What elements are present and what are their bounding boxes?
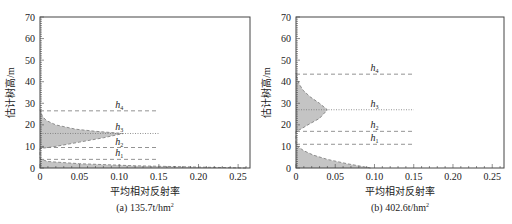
y-tick-label: 70 xyxy=(25,12,35,23)
marker-subscript: 2 xyxy=(376,125,379,131)
y-tick-label: 0 xyxy=(30,163,35,174)
y-tick-label: 50 xyxy=(25,55,35,66)
y-tick-label: 10 xyxy=(25,141,35,152)
x-tick-label: 0 xyxy=(294,171,299,182)
y-axis-title: 估计树高/m xyxy=(4,67,16,118)
marker-subscript: 4 xyxy=(120,105,123,111)
y-tick-label: 40 xyxy=(25,76,35,87)
marker-label-h4: h4 xyxy=(371,62,379,74)
y-tick-label: 30 xyxy=(281,98,291,109)
marker-label-h1: h1 xyxy=(371,132,379,144)
marker-label-h4: h4 xyxy=(115,99,123,111)
y-tick-label: 10 xyxy=(281,141,291,152)
x-tick-label: 0.20 xyxy=(190,171,208,182)
x-tick-label: 0 xyxy=(38,171,43,182)
x-axis-title: 平均相对反射率 xyxy=(110,185,180,197)
x-tick-label: 0.15 xyxy=(405,171,423,182)
x-tick-label: 0.05 xyxy=(71,171,89,182)
marker-subscript: 3 xyxy=(376,104,379,110)
y-tick-label: 0 xyxy=(286,163,291,174)
marker-subscript: 1 xyxy=(376,138,379,144)
marker-label-h3: h3 xyxy=(371,98,379,110)
marker-label-h3: h3 xyxy=(115,121,123,133)
x-tick-label: 0.10 xyxy=(366,171,384,182)
chart-panel-a: h1h2h3h401020304050607000.050.100.150.20… xyxy=(4,12,250,215)
marker-subscript: 2 xyxy=(120,142,123,148)
chart-panel-b: h1h2h3h401020304050607000.050.100.150.20… xyxy=(260,12,504,215)
x-tick-label: 0.05 xyxy=(326,171,344,182)
y-tick-label: 20 xyxy=(281,119,291,130)
x-tick-label: 0.20 xyxy=(444,171,462,182)
figure: h1h2h3h401020304050607000.050.100.150.20… xyxy=(0,0,512,224)
y-tick-label: 60 xyxy=(281,33,291,44)
marker-label-h2: h2 xyxy=(371,119,379,131)
y-tick-label: 30 xyxy=(25,98,35,109)
marker-subscript: 1 xyxy=(120,153,123,159)
y-tick-label: 20 xyxy=(25,119,35,130)
x-tick-label: 0.10 xyxy=(110,171,128,182)
marker-subscript: 3 xyxy=(120,127,123,133)
x-axis-title: 平均相对反射率 xyxy=(365,185,435,197)
panel-caption: (a) 135.7t/hm2 xyxy=(116,202,173,214)
panel-caption: (b) 402.6t/hm2 xyxy=(371,202,429,214)
x-tick-label: 0.25 xyxy=(229,171,247,182)
reflectance-profile-area xyxy=(296,73,371,168)
caption-superscript: 2 xyxy=(171,202,174,208)
x-tick-label: 0.25 xyxy=(483,171,501,182)
plot-frame xyxy=(296,17,504,168)
y-tick-label: 60 xyxy=(25,33,35,44)
marker-label-h2: h2 xyxy=(115,136,123,148)
y-tick-label: 50 xyxy=(281,55,291,66)
y-tick-label: 70 xyxy=(281,12,291,23)
plot-frame xyxy=(40,17,250,168)
y-axis-title: 估计树高/m xyxy=(260,67,272,118)
marker-subscript: 4 xyxy=(376,68,379,74)
x-tick-label: 0.15 xyxy=(150,171,168,182)
caption-superscript: 2 xyxy=(426,202,429,208)
marker-label-h1: h1 xyxy=(115,147,123,159)
y-tick-label: 40 xyxy=(281,76,291,87)
